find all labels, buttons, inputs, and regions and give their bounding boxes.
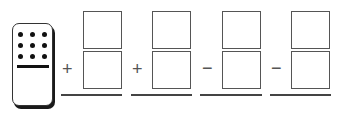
- pip: [42, 54, 47, 59]
- operator-sign: −: [202, 59, 213, 77]
- answer-box-bottom[interactable]: [152, 51, 191, 89]
- operator-sign: −: [271, 59, 282, 77]
- operator-sign: +: [62, 60, 73, 78]
- sum-line: [131, 94, 192, 96]
- answer-box-bottom[interactable]: [83, 51, 122, 89]
- operator-sign: +: [132, 60, 143, 78]
- pip: [18, 54, 23, 59]
- pip: [18, 32, 23, 37]
- sum-line: [200, 94, 262, 96]
- answer-box-top[interactable]: [291, 11, 330, 49]
- answer-box-bottom[interactable]: [291, 51, 330, 89]
- domino-divider: [17, 65, 49, 68]
- answer-box-top[interactable]: [222, 11, 261, 49]
- pip: [18, 43, 23, 48]
- answer-box-bottom[interactable]: [222, 51, 261, 89]
- pip: [30, 43, 35, 48]
- pip: [42, 32, 47, 37]
- pip: [42, 43, 47, 48]
- sum-line: [61, 94, 122, 96]
- answer-box-top[interactable]: [83, 11, 122, 49]
- sum-line: [270, 94, 331, 96]
- answer-box-top[interactable]: [152, 11, 191, 49]
- domino-tile: [12, 23, 53, 106]
- pip: [30, 54, 35, 59]
- pip: [30, 32, 35, 37]
